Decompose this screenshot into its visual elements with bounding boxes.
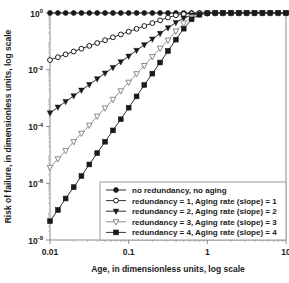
data-point-marker — [118, 11, 123, 16]
data-point-marker — [114, 188, 119, 193]
data-point-marker — [181, 26, 186, 31]
x-tick-label: 0.1 — [123, 247, 135, 257]
data-point-marker — [134, 26, 139, 31]
data-point-marker — [229, 11, 234, 16]
data-point-marker — [111, 35, 116, 40]
data-point-marker — [103, 11, 108, 16]
data-point-marker — [103, 139, 108, 144]
data-point-marker — [252, 11, 257, 16]
data-point-marker — [166, 15, 171, 20]
data-point-marker — [63, 52, 68, 57]
y-tick-label: 10-6 — [28, 178, 43, 189]
data-point-marker — [55, 11, 60, 16]
data-point-marker — [103, 38, 108, 43]
data-point-marker — [79, 174, 84, 179]
data-point-marker — [55, 208, 60, 213]
chart-legend: no redundancy, no agingredundancy = 1, A… — [100, 182, 286, 240]
data-point-marker — [260, 11, 265, 16]
data-point-marker — [71, 185, 76, 190]
data-point-marker — [48, 58, 53, 63]
y-tick-label: 10-2 — [28, 65, 43, 76]
data-point-marker — [221, 11, 226, 16]
data-point-marker — [268, 11, 273, 16]
data-point-marker — [118, 117, 123, 122]
data-point-marker — [126, 105, 131, 110]
data-point-marker — [63, 196, 68, 201]
data-point-marker — [142, 83, 147, 88]
legend-label-4: redundancy = 4, Aging rate (slope) = 4 — [132, 228, 277, 237]
data-point-marker — [126, 11, 131, 16]
data-point-marker — [114, 230, 119, 235]
data-point-marker — [71, 11, 76, 16]
x-tick-label: 10 — [281, 247, 289, 257]
legend-label-2: redundancy = 2, Aging rate (slope) = 2 — [132, 207, 277, 216]
x-tick-label: 0.01 — [42, 247, 59, 257]
data-point-marker — [134, 11, 139, 16]
data-point-marker — [95, 151, 100, 156]
data-point-marker — [150, 11, 155, 16]
y-axis-title: Risk of failure, in dimensionless units,… — [3, 29, 13, 223]
data-point-marker — [213, 11, 218, 16]
data-point-marker — [71, 49, 76, 54]
legend-item-4[interactable]: redundancy = 4, Aging rate (slope) = 4 — [106, 228, 277, 237]
y-tick-label: 10-4 — [28, 122, 43, 133]
x-axis-title: Age, in dimensionless units, log scale — [91, 264, 245, 274]
data-point-marker — [158, 18, 163, 23]
data-point-marker — [87, 11, 92, 16]
risk-of-failure-log-log-chart: 0.010.111010010-210-410-610-8Age, in dim… — [0, 0, 289, 283]
data-point-marker — [87, 162, 92, 167]
data-point-marker — [95, 11, 100, 16]
data-point-marker — [284, 11, 289, 16]
data-point-marker — [158, 60, 163, 65]
data-point-marker — [205, 11, 210, 16]
data-point-marker — [173, 13, 178, 18]
data-point-marker — [63, 11, 68, 16]
data-point-marker — [276, 11, 281, 16]
data-point-marker — [166, 49, 171, 54]
data-point-marker — [48, 219, 53, 224]
legend-item-3[interactable]: redundancy = 3, Aging rate (slope) = 3 — [106, 218, 277, 227]
chart-figure: 0.010.111010010-210-410-610-8Age, in dim… — [0, 0, 289, 283]
data-point-marker — [87, 43, 92, 48]
data-point-marker — [158, 11, 163, 16]
y-tick-label: 10-8 — [28, 235, 43, 246]
data-point-marker — [150, 21, 155, 26]
y-tick-label: 100 — [30, 8, 43, 19]
data-point-marker — [118, 32, 123, 37]
data-point-marker — [142, 24, 147, 29]
data-point-marker — [173, 37, 178, 42]
data-point-marker — [79, 11, 84, 16]
data-point-marker — [126, 29, 131, 34]
data-point-marker — [134, 94, 139, 99]
x-tick-label: 1 — [205, 247, 210, 257]
data-point-marker — [111, 128, 116, 133]
legend-item-1[interactable]: redundancy = 1, Aging rate (slope) = 1 — [106, 197, 277, 206]
data-point-marker — [95, 41, 100, 46]
data-point-marker — [150, 71, 155, 76]
data-point-marker — [244, 11, 249, 16]
data-point-marker — [197, 12, 202, 17]
data-point-marker — [236, 11, 241, 16]
data-point-marker — [55, 55, 60, 60]
data-point-marker — [48, 11, 53, 16]
legend-label-0: no redundancy, no aging — [132, 186, 227, 195]
data-point-marker — [111, 11, 116, 16]
legend-item-2[interactable]: redundancy = 2, Aging rate (slope) = 2 — [106, 207, 277, 216]
legend-label-1: redundancy = 1, Aging rate (slope) = 1 — [132, 197, 277, 206]
data-point-marker — [189, 17, 194, 22]
data-point-marker — [79, 46, 84, 51]
data-point-marker — [114, 198, 119, 203]
data-point-marker — [142, 11, 147, 16]
legend-label-3: redundancy = 3, Aging rate (slope) = 3 — [132, 218, 277, 227]
